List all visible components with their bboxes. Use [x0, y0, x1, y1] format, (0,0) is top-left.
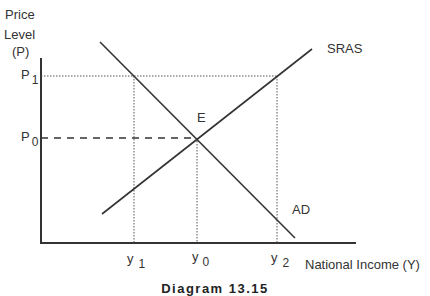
y1-label-sub: 1	[139, 257, 146, 271]
y2-label: y2	[271, 251, 289, 264]
x-axis-label: National Income (Y)	[305, 258, 420, 271]
equilibrium-label: E	[197, 111, 206, 124]
y-axis-label-line1: Price	[5, 8, 35, 21]
p1-label-sub: 1	[32, 73, 39, 87]
y2-label-sub: 2	[283, 256, 290, 270]
p1-label: P1	[21, 68, 38, 81]
p0-label-main: P	[21, 129, 30, 144]
y0-label-main: y	[192, 249, 199, 264]
diagram-caption: Diagram 13.15	[0, 281, 430, 296]
y0-label: y0	[192, 250, 209, 263]
diagram-canvas	[0, 0, 430, 296]
y2-label-main: y	[271, 250, 278, 265]
sras-label: SRAS	[327, 42, 362, 55]
y-axis-label-line2: Level	[4, 28, 35, 41]
p1-label-main: P	[21, 67, 30, 82]
p0-label: P0	[21, 130, 38, 143]
y-axis-label-line3: (P)	[12, 45, 29, 58]
y1-label: y1	[127, 252, 145, 265]
ad-curve	[100, 42, 295, 238]
ad-label: AD	[292, 203, 310, 216]
y1-label-main: y	[127, 251, 134, 266]
y0-label-sub: 0	[203, 255, 210, 269]
p0-label-sub: 0	[32, 135, 39, 149]
